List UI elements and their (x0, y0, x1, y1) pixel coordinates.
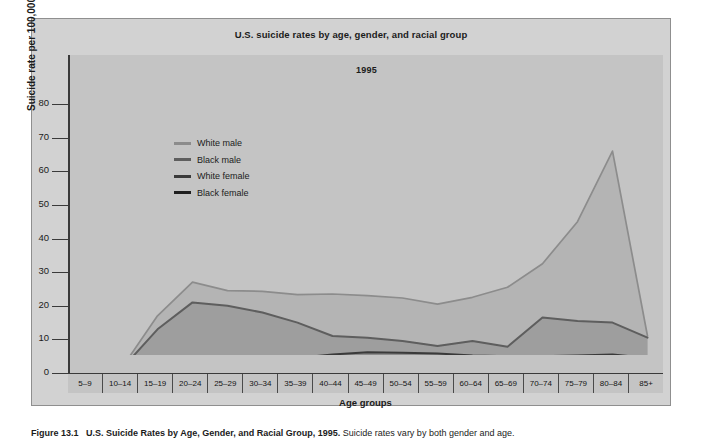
y-tick-label: 10 (38, 332, 49, 343)
y-tick-label: 0 (44, 366, 49, 377)
y-tick-mark (52, 171, 68, 172)
x-axis-tick-labels: 5–910–1415–1920–2425–2930–3435–3940–4445… (68, 373, 663, 393)
chart-title: U.S. suicide rates by age, gender, and r… (32, 29, 670, 40)
x-axis-tick-label: 20–24 (172, 374, 207, 393)
plot-canvas (70, 55, 665, 355)
x-axis-tick-label: 50–54 (383, 374, 418, 393)
legend-swatch-icon (174, 158, 191, 161)
legend-swatch-icon (174, 142, 191, 145)
legend-item-white-female: White female (174, 168, 250, 185)
x-axis-tick-label: 80–84 (593, 374, 628, 393)
y-tick-mark (52, 373, 68, 374)
legend-label: Black female (197, 188, 249, 198)
legend-swatch-icon (174, 191, 191, 194)
y-tick-mark (52, 239, 68, 240)
legend-item-black-male: Black male (174, 152, 250, 169)
legend-swatch-icon (174, 175, 191, 178)
figure-caption: Figure 13.1 U.S. Suicide Rates by Age, G… (31, 428, 691, 438)
x-axis-tick-label: 45–49 (348, 374, 383, 393)
x-axis-tick-label: 60–64 (453, 374, 488, 393)
x-axis-tick-label: 65–69 (488, 374, 523, 393)
x-axis-tick-label: 70–74 (523, 374, 558, 393)
y-tick-label: 60 (38, 164, 49, 175)
y-tick-label: 50 (38, 198, 49, 209)
y-tick-mark (52, 205, 68, 206)
legend-label: Black male (197, 155, 241, 165)
x-axis-tick-label: 15–19 (137, 374, 172, 393)
x-axis-tick-label: 75–79 (558, 374, 593, 393)
x-axis-title: Age groups (68, 397, 663, 408)
legend-item-white-male: White male (174, 135, 250, 152)
chart-legend: White maleBlack maleWhite femaleBlack fe… (174, 135, 250, 201)
caption-rest: Suicide rates vary by both gender and ag… (343, 428, 515, 438)
y-tick-mark (52, 104, 68, 105)
x-axis-tick-label: 25–29 (207, 374, 242, 393)
y-tick-label: 20 (38, 299, 49, 310)
plot-area: 1995 White maleBlack maleWhite femaleBla… (68, 55, 663, 373)
y-tick-mark (52, 339, 68, 340)
y-tick-label: 80 (38, 97, 49, 108)
y-tick-mark (52, 306, 68, 307)
y-axis: Suicide rate per 100,000 010203040506070… (32, 19, 68, 373)
y-axis-title: Suicide rate per 100,000 (26, 0, 37, 139)
y-tick-label: 30 (38, 265, 49, 276)
x-axis-tick-label: 35–39 (277, 374, 312, 393)
year-annotation: 1995 (70, 65, 663, 75)
y-tick-label: 70 (38, 131, 49, 142)
x-axis-tick-label: 5–9 (68, 374, 102, 393)
chart-svg (70, 55, 665, 355)
y-tick-mark (52, 138, 68, 139)
legend-label: White male (197, 138, 242, 148)
y-tick-label: 40 (38, 232, 49, 243)
x-axis-tick-label: 30–34 (242, 374, 277, 393)
x-axis-tick-label: 40–44 (312, 374, 347, 393)
legend-label: White female (197, 171, 250, 181)
legend-item-black-female: Black female (174, 185, 250, 202)
x-axis-tick-label: 10–14 (102, 374, 137, 393)
caption-title: U.S. Suicide Rates by Age, Gender, and R… (86, 428, 340, 438)
caption-lead: Figure 13.1 (31, 428, 79, 438)
x-axis-tick-label: 85+ (628, 374, 663, 393)
x-axis-tick-label: 55–59 (418, 374, 453, 393)
y-tick-mark (52, 272, 68, 273)
figure-panel: U.S. suicide rates by age, gender, and r… (31, 18, 671, 406)
